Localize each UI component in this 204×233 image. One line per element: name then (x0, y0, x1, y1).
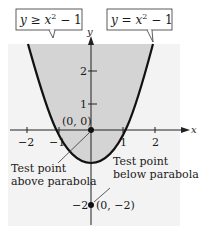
x-axis-arrow-icon (181, 127, 190, 133)
x-tick-label: 2 (152, 136, 159, 149)
y-tick-label: 2 (80, 65, 87, 78)
y-tick-label: −2 (72, 199, 88, 212)
annotation-below-line2: below parabola (113, 168, 199, 181)
annotation-above-line2: above parabola (11, 175, 97, 188)
inequality-graph-figure: −2 −1 1 2 2 1 −2 x y (0, 0) (0, −2) Test… (0, 0, 204, 233)
x-tick-label: −1 (49, 136, 65, 149)
callout-equation: y = x2 − 1 (107, 9, 173, 42)
callout-inequality: y ≥ x2 − 1 (16, 9, 82, 38)
annotation-below-line1: Test point (113, 155, 169, 168)
y-axis-arrow-icon (88, 36, 94, 45)
y-axis-label: y (86, 26, 93, 37)
x-tick-label: 1 (120, 136, 127, 149)
point-label-origin: (0, 0) (62, 115, 92, 128)
test-point-below (88, 202, 94, 208)
svg-text:y = x2 − 1: y = x2 − 1 (110, 12, 173, 27)
x-axis-label: x (191, 124, 197, 135)
y-tick-label: 1 (80, 98, 87, 111)
svg-text:y ≥ x2 − 1: y ≥ x2 − 1 (19, 12, 82, 27)
annotation-above-line1: Test point (11, 162, 67, 175)
point-label-below: (0, −2) (96, 199, 135, 212)
x-tick-label: −2 (18, 136, 34, 149)
